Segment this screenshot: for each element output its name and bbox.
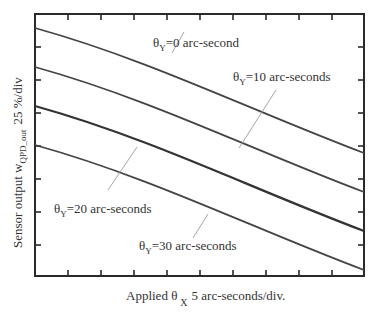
- y-axis-label: Sensor output wQPD_out25 %/div: [10, 77, 28, 248]
- label-theta-y-30: θY=30 arc-seconds: [139, 238, 237, 256]
- x-axis-label: Applied θX5 arc-seconds/div.: [126, 288, 285, 308]
- x-ticks: [68, 14, 332, 276]
- label-theta-y-10: θY=10 arc-seconds: [233, 69, 331, 87]
- chart: θY=0 arc-second θY=10 arc-seconds θY=20 …: [0, 0, 377, 318]
- series-lines: [35, 28, 364, 270]
- plot-frame: [35, 14, 364, 276]
- label-theta-y-0: θY=0 arc-second: [153, 35, 240, 53]
- label-theta-y-20: θY=20 arc-seconds: [54, 201, 152, 219]
